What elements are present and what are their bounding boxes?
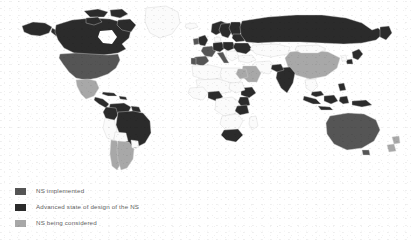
legend-label-implemented: NS implemented [36, 187, 84, 195]
legend-swatch-implemented [15, 188, 26, 195]
legend-swatch-considered [15, 220, 26, 227]
legend-item-considered: NS being considered [15, 215, 345, 231]
country-ireland [193, 38, 199, 45]
legend-label-advanced: Advanced state of design of the NS [36, 203, 139, 211]
country-portugal [191, 58, 196, 65]
world-map-svg [0, 0, 412, 176]
legend-item-implemented: NS implemented [15, 183, 345, 199]
legend-item-advanced: Advanced state of design of the NS [15, 199, 345, 215]
country-uruguay-paraguay [131, 140, 139, 148]
map-legend: NS implemented Advanced state of design … [15, 183, 345, 231]
legend-label-considered: NS being considered [36, 219, 97, 227]
country-japan-south [346, 59, 353, 64]
map-panel [0, 0, 412, 176]
legend-swatch-advanced [15, 204, 26, 211]
country-denmark [214, 37, 221, 42]
country-korea [341, 55, 347, 61]
world-map-figure: NS implemented Advanced state of design … [0, 0, 412, 242]
country-tasmania [362, 150, 370, 155]
